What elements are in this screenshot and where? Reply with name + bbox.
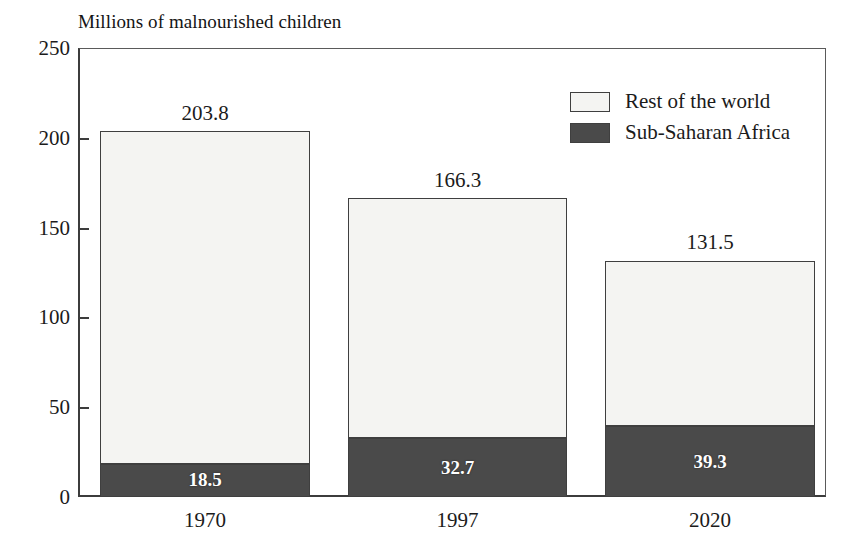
y-tick-label-250: 250 bbox=[6, 38, 70, 59]
y-tick-mark-100 bbox=[78, 317, 89, 319]
legend-item-sub-saharan-africa[interactable]: Sub-Saharan Africa bbox=[570, 117, 790, 148]
stacked-bar-chart: Millions of malnourished children 250 20… bbox=[0, 0, 854, 547]
bar-total-label-1997: 166.3 bbox=[434, 168, 481, 193]
legend-swatch-sub-saharan-africa bbox=[570, 123, 610, 143]
bar-total-label-2020: 131.5 bbox=[686, 230, 733, 255]
bar-value-label-sub-saharan-africa-2020: 39.3 bbox=[693, 451, 726, 473]
bar-total-label-1970: 203.8 bbox=[181, 101, 228, 126]
y-tick-mark-200 bbox=[78, 138, 89, 140]
legend-item-rest-of-the-world[interactable]: Rest of the world bbox=[570, 86, 790, 117]
chart-legend: Rest of the world Sub-Saharan Africa bbox=[570, 86, 790, 148]
bar-value-label-sub-saharan-africa-1997: 32.7 bbox=[441, 457, 474, 479]
y-tick-label-150: 150 bbox=[6, 217, 70, 238]
y-tick-mark-50 bbox=[78, 407, 89, 409]
legend-swatch-rest-of-the-world bbox=[570, 92, 610, 112]
legend-label-sub-saharan-africa: Sub-Saharan Africa bbox=[625, 120, 790, 145]
x-tick-label-1970: 1970 bbox=[184, 508, 226, 533]
y-tick-mark-150 bbox=[78, 228, 89, 230]
y-axis: 250 200 150 100 50 0 bbox=[0, 0, 70, 547]
bar-value-label-sub-saharan-africa-1970: 18.5 bbox=[188, 469, 221, 491]
bar-segment-rest-of-world-1997[interactable] bbox=[348, 198, 567, 438]
chart-title: Millions of malnourished children bbox=[78, 11, 341, 33]
y-tick-label-200: 200 bbox=[6, 127, 70, 148]
x-tick-label-1997: 1997 bbox=[437, 508, 479, 533]
y-tick-label-0: 0 bbox=[6, 487, 70, 508]
y-tick-label-50: 50 bbox=[6, 397, 70, 418]
legend-label-rest-of-the-world: Rest of the world bbox=[625, 89, 770, 114]
bar-segment-rest-of-world-2020[interactable] bbox=[605, 261, 815, 427]
x-tick-label-2020: 2020 bbox=[689, 508, 731, 533]
bar-segment-rest-of-world-1970[interactable] bbox=[100, 131, 310, 464]
y-tick-label-100: 100 bbox=[6, 307, 70, 328]
